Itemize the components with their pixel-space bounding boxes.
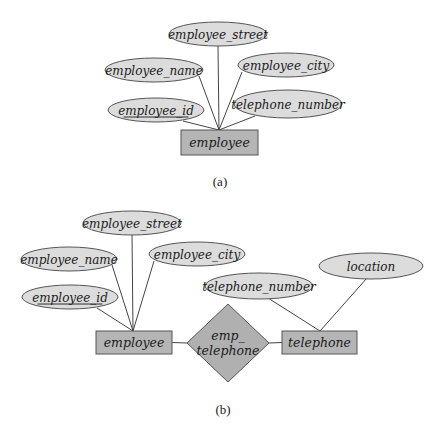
entity-employee: employee <box>96 331 172 354</box>
connector-line <box>219 116 255 130</box>
entity-label: employee <box>104 335 165 350</box>
connector-line <box>97 308 133 331</box>
relationship-connector-left <box>172 343 187 344</box>
connector-line <box>183 121 219 130</box>
diagram-b: employee_streetemployee_nameemployee_cit… <box>20 211 423 382</box>
caption-b: (b) <box>215 402 230 417</box>
attribute-employee-id: employee_id <box>108 98 204 122</box>
attribute-label: employee_id <box>118 104 194 118</box>
relationship-emp-telephone: emp_telephone <box>187 304 269 382</box>
connector-line <box>268 298 320 331</box>
attribute-employee-city: employee_city <box>149 242 245 266</box>
relationship-label-line1: emp_ <box>211 328 245 343</box>
relationship-label-line2: telephone <box>197 343 260 358</box>
attribute-employee-id: employee_id <box>22 285 118 309</box>
attribute-label: employee_name <box>20 253 118 267</box>
attribute-label: employee_city <box>154 248 241 262</box>
attribute-telephone-number: telephone_number <box>231 90 346 118</box>
attribute-label: employee_name <box>105 64 203 78</box>
attribute-employee-street: employee_street <box>82 211 182 235</box>
connector-line <box>133 261 154 331</box>
attribute-label: location <box>347 260 396 274</box>
attribute-employee-city: employee_city <box>238 53 334 77</box>
attribute-employee-name: employee_name <box>20 247 118 271</box>
attribute-telephone-number: telephone_number <box>202 273 317 299</box>
attribute-location: location <box>319 253 423 279</box>
entity-label: employee <box>189 135 250 150</box>
attribute-label: employee_id <box>32 291 108 305</box>
entity-label: telephone <box>288 335 351 350</box>
connector-line <box>218 46 219 130</box>
connector-line <box>320 278 367 331</box>
attribute-label: telephone_number <box>231 98 346 112</box>
connector-line <box>132 235 133 331</box>
entity-employee: employee <box>181 130 258 155</box>
attribute-employee-street: employee_street <box>168 22 268 46</box>
attribute-label: employee_street <box>168 28 268 42</box>
attribute-label: employee_city <box>243 59 330 73</box>
attribute-employee-name: employee_name <box>105 58 203 82</box>
caption-a: (a) <box>213 174 227 189</box>
er-diagram-canvas: employee_streetemployee_nameemployee_cit… <box>0 0 442 434</box>
attribute-label: telephone_number <box>202 280 317 294</box>
connector-line <box>199 76 219 130</box>
relationship-connector-right <box>269 343 282 344</box>
diagram-a: employee_streetemployee_nameemployee_cit… <box>105 22 346 155</box>
attribute-label: employee_street <box>82 217 182 231</box>
entity-telephone: telephone <box>282 331 357 354</box>
